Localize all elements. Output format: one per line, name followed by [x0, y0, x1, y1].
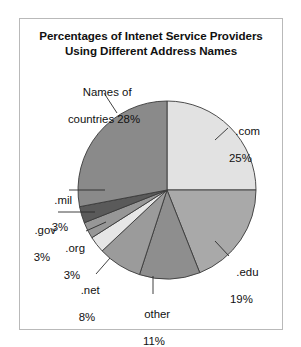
pie-label-net-percent: 8% — [64, 311, 110, 324]
pie-label-gov-percent: 3% — [19, 251, 65, 264]
pie-label-names-of-countries: Names of countries 28% — [56, 73, 152, 140]
pie-label-mil-name: .mil — [54, 194, 72, 206]
pie-label-countries-line-2: countries 28% — [56, 113, 152, 126]
pie-label-com-name: .com — [235, 125, 260, 137]
pie-label-com: .com 25% — [229, 112, 289, 179]
pie-label-com-percent: 25% — [229, 152, 289, 165]
pie-label-countries-line-1: Names of — [83, 86, 132, 98]
pie-label-edu-name: .edu — [236, 266, 258, 278]
pie-label-other-name: other — [144, 308, 170, 320]
chart-title: Percentages of Intenet Service Providers… — [20, 28, 282, 58]
pie-label-edu-percent: 19% — [230, 293, 288, 306]
pie-label-mil-percent: 3% — [38, 221, 82, 234]
chart-title-line-2: Using Different Address Names — [65, 44, 237, 57]
chart-title-line-1: Percentages of Intenet Service Providers — [39, 29, 263, 42]
pie-label-other: other 11% — [123, 295, 185, 347]
pie-label-edu: .edu 19% — [230, 253, 288, 320]
pie-label-mil: .mil 3% — [38, 181, 82, 248]
pie-label-other-percent: 11% — [123, 335, 185, 347]
